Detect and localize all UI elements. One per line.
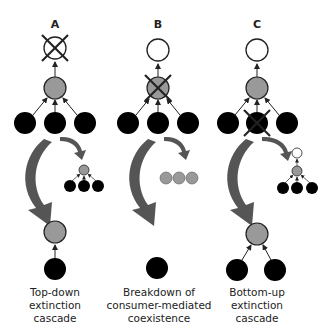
consumer-node xyxy=(246,223,268,245)
resource-node xyxy=(276,112,298,134)
arrow-icon xyxy=(167,99,180,115)
caption-line: cascade xyxy=(0,312,110,325)
resource-node xyxy=(74,112,96,134)
resource-node xyxy=(14,112,36,134)
panel-b-letter: B xyxy=(154,18,162,31)
arrow-icon xyxy=(263,245,271,260)
remaining-consumers xyxy=(160,172,198,184)
resource-node xyxy=(117,112,139,134)
resource-node xyxy=(44,258,66,280)
big-curved-arrow-icon xyxy=(227,139,254,226)
consumer-node xyxy=(44,221,66,243)
arrow-icon xyxy=(136,99,149,115)
caption-line: coexistence xyxy=(104,312,214,325)
small-curved-arrow-icon xyxy=(164,137,190,160)
big-curved-arrow-icon xyxy=(25,139,52,226)
caption-line: extinction xyxy=(202,299,312,312)
caption-line: cascade xyxy=(202,312,312,325)
resource-node xyxy=(146,257,168,279)
small-curved-arrow-icon xyxy=(262,137,292,161)
panel-a: A xyxy=(14,18,104,280)
resource-node xyxy=(177,112,199,134)
panel-c-letter: C xyxy=(253,18,261,31)
mini-network xyxy=(64,165,104,192)
caption-top-down: Top-down extinction cascade xyxy=(0,286,110,325)
panel-c: C xyxy=(217,18,318,281)
consumer-node xyxy=(44,77,66,99)
consumer-node xyxy=(246,77,268,99)
caption-line: Breakdown of xyxy=(104,286,214,299)
resource-node xyxy=(217,112,239,134)
resource-node xyxy=(226,259,248,281)
resource-node xyxy=(264,259,286,281)
arrow-icon xyxy=(242,245,251,260)
caption-consumer-mediated: Breakdown of consumer-mediated coexisten… xyxy=(104,286,214,325)
arrow-icon xyxy=(33,98,47,115)
panel-b: B xyxy=(117,18,199,279)
caption-line: consumer-mediated xyxy=(104,299,214,312)
big-curved-arrow-icon xyxy=(129,139,156,226)
resource-node xyxy=(44,112,66,134)
top-predator-node xyxy=(147,39,169,61)
arrow-icon xyxy=(63,98,77,115)
caption-line: Bottom-up xyxy=(202,286,312,299)
caption-line: Top-down xyxy=(0,286,110,299)
top-predator-node xyxy=(246,39,268,61)
caption-line: extinction xyxy=(0,299,110,312)
small-curved-arrow-icon xyxy=(60,137,86,160)
caption-bottom-up: Bottom-up extinction cascade xyxy=(202,286,312,325)
resource-node xyxy=(147,112,169,134)
panel-a-letter: A xyxy=(51,18,60,31)
